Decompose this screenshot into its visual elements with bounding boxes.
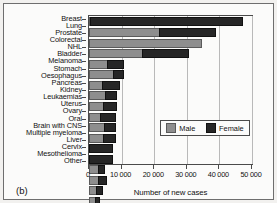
bar-row bbox=[89, 79, 252, 90]
y-axis-category-labels: BreastLungProstateColorectalNHLBladderMe… bbox=[4, 15, 86, 165]
bar-row bbox=[89, 153, 252, 164]
y-tick bbox=[82, 76, 86, 77]
y-tick bbox=[82, 119, 86, 120]
bar-segment-female bbox=[142, 49, 189, 58]
bar-row bbox=[89, 101, 252, 112]
bar-segment-female bbox=[100, 113, 116, 122]
bar-segment-female bbox=[159, 28, 216, 37]
bar-segment-female bbox=[89, 155, 113, 164]
bar-segment-female bbox=[105, 91, 117, 100]
y-tick bbox=[82, 147, 86, 148]
bar-segment-female bbox=[103, 134, 116, 143]
x-tick bbox=[88, 165, 89, 169]
y-tick bbox=[82, 133, 86, 134]
legend: Male Female bbox=[160, 120, 250, 136]
y-tick bbox=[82, 97, 86, 98]
bar-segment-male bbox=[89, 39, 202, 48]
y-tick bbox=[82, 104, 86, 105]
bar-row bbox=[89, 48, 252, 59]
legend-label-male: Male bbox=[179, 124, 195, 133]
figure-inner-border: BreastLungProstateColorectalNHLBladderMe… bbox=[3, 3, 274, 200]
bar-segment-female bbox=[89, 144, 113, 153]
bar-row bbox=[89, 27, 252, 38]
y-tick bbox=[82, 90, 86, 91]
x-axis-ticks bbox=[88, 165, 253, 169]
x-tick-label: 30 000 bbox=[175, 170, 196, 179]
x-tick-label: 20 000 bbox=[143, 170, 164, 179]
legend-swatch-male-icon bbox=[166, 123, 176, 133]
y-tick bbox=[82, 33, 86, 34]
bar-row bbox=[89, 37, 252, 48]
figure-frame: BreastLungProstateColorectalNHLBladderMe… bbox=[0, 0, 277, 203]
bar-row bbox=[89, 143, 252, 154]
legend-swatch-female-icon bbox=[206, 123, 216, 133]
x-tick bbox=[218, 165, 219, 169]
legend-label-female: Female bbox=[219, 124, 244, 133]
bar-row bbox=[89, 16, 252, 27]
y-tick bbox=[82, 47, 86, 48]
y-tick bbox=[82, 140, 86, 141]
gridline bbox=[252, 16, 253, 164]
x-tick bbox=[121, 165, 122, 169]
bar-segment-female bbox=[95, 197, 101, 203]
bar-row bbox=[89, 90, 252, 101]
bar-segment-female bbox=[104, 123, 116, 132]
bar-segment-male bbox=[89, 49, 144, 58]
y-tick bbox=[82, 154, 86, 155]
legend-item-male: Male bbox=[166, 123, 195, 133]
bar-segment-male bbox=[89, 70, 115, 79]
y-tick bbox=[82, 54, 86, 55]
x-tick-label: 40 000 bbox=[208, 170, 229, 179]
x-tick bbox=[153, 165, 154, 169]
bar-segment-female bbox=[113, 70, 124, 79]
bar-segment-male bbox=[89, 60, 109, 69]
bar-row bbox=[89, 69, 252, 80]
bar-segment-female bbox=[107, 60, 124, 69]
bar-segment-male bbox=[89, 28, 161, 37]
y-label-other: Other bbox=[64, 156, 82, 166]
x-tick-label: 50 000 bbox=[240, 170, 261, 179]
y-tick bbox=[82, 126, 86, 127]
x-axis-title: Number of new cases bbox=[88, 188, 253, 197]
bar-segment-female bbox=[90, 17, 243, 26]
panel-label: (b) bbox=[16, 185, 28, 196]
y-tick bbox=[82, 111, 86, 112]
bar-segment-female bbox=[102, 81, 120, 90]
bar-segment-female bbox=[103, 102, 116, 111]
bar-row bbox=[89, 58, 252, 69]
y-tick bbox=[82, 26, 86, 27]
plot-area: Male Female bbox=[88, 15, 253, 165]
y-tick bbox=[82, 161, 86, 162]
bar-rows bbox=[89, 16, 252, 164]
y-tick bbox=[82, 19, 86, 20]
y-tick bbox=[82, 40, 86, 41]
y-tick bbox=[82, 61, 86, 62]
x-tick bbox=[251, 165, 252, 169]
x-tick bbox=[186, 165, 187, 169]
legend-item-female: Female bbox=[206, 123, 244, 133]
y-tick bbox=[82, 83, 86, 84]
y-tick bbox=[82, 69, 86, 70]
x-tick-label: 10 000 bbox=[110, 170, 131, 179]
x-tick-label: 0 bbox=[86, 170, 90, 179]
x-axis-tick-labels: 010 00020 00030 00040 00050 000 bbox=[4, 170, 277, 181]
